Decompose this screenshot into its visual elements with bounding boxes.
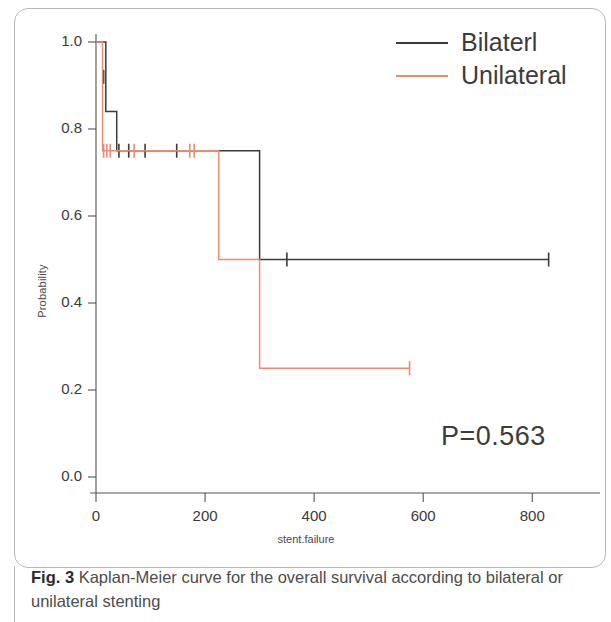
p-value-annotation: P=0.563 — [441, 421, 546, 452]
x-axis-tick-label: 800 — [492, 507, 572, 524]
y-axis-tick-label: 0.2 — [26, 380, 82, 397]
x-axis-tick-label: 400 — [274, 507, 354, 524]
y-axis-tick-label: 0.4 — [26, 293, 82, 310]
figure-caption-body: Kaplan-Meier curve for the overall survi… — [31, 568, 563, 610]
y-axis-tick-label: 1.0 — [26, 32, 82, 49]
figure-caption-text: Fig. 3 Kaplan-Meier curve for the overal… — [31, 566, 600, 614]
x-axis-title: stent.failure — [196, 533, 416, 545]
y-axis-tick-label: 0.0 — [26, 467, 82, 484]
chart-legend: Bilaterl Unilateral — [396, 26, 567, 92]
survival-curve-unilateral — [96, 42, 410, 368]
figure-caption-label: Fig. 3 — [31, 568, 74, 586]
y-axis-title: Probability — [36, 231, 48, 351]
kaplan-meier-chart: 0.00.20.40.60.81.0 0200400600800 Probabi… — [0, 0, 611, 560]
x-axis-tick-label: 600 — [383, 507, 463, 524]
legend-entry-bilateral: Bilaterl — [396, 26, 567, 59]
legend-entry-unilateral: Unilateral — [396, 59, 567, 92]
legend-line-swatch-unilateral — [396, 75, 448, 77]
x-axis-tick-label: 200 — [165, 507, 245, 524]
x-axis-tick-label: 0 — [56, 507, 136, 524]
figure-caption: Fig. 3 Kaplan-Meier curve for the overal… — [14, 566, 600, 622]
legend-line-swatch-bilateral — [396, 42, 448, 44]
y-axis-tick-label: 0.6 — [26, 206, 82, 223]
figure-root: 0.00.20.40.60.81.0 0200400600800 Probabi… — [0, 0, 611, 622]
legend-label-unilateral: Unilateral — [461, 63, 567, 88]
legend-label-bilateral: Bilaterl — [461, 30, 537, 55]
y-axis-tick-label: 0.8 — [26, 119, 82, 136]
